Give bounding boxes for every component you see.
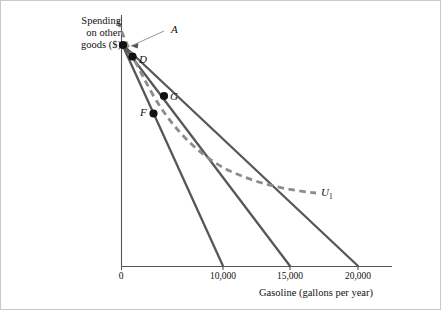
curve-label-u1-subscript: 1 — [329, 192, 333, 201]
budget-line-steep — [122, 44, 223, 266]
point-label-a: A — [171, 23, 178, 35]
leader-line-a — [131, 31, 164, 48]
budget-line-flat — [122, 44, 358, 266]
axes-group — [121, 15, 392, 267]
x-tick-label-20000: 20,000 — [345, 271, 371, 281]
x-tick-label-15000: 15,000 — [277, 271, 303, 281]
point-label-g: G — [170, 90, 178, 102]
budget-line-middle — [122, 44, 290, 266]
point-marker-g — [160, 92, 168, 100]
indifference-curve-u1 — [118, 21, 316, 193]
point-label-d: D — [139, 53, 147, 65]
figure-container: Spending on other goods ($) Gasoline (ga… — [0, 0, 441, 310]
y-axis-title-line-2: on other — [59, 27, 121, 39]
curve-label-u1: U1 — [321, 186, 333, 201]
y-axis-title-line-1: Spending — [59, 15, 121, 27]
point-marker-d — [128, 52, 136, 60]
x-axis-title: Gasoline (gallons per year) — [259, 287, 373, 299]
x-tick-label-10000: 10,000 — [210, 271, 236, 281]
point-marker-f — [149, 109, 157, 117]
point-label-f: F — [140, 106, 147, 118]
y-axis-title-line-3: goods ($) — [59, 39, 121, 51]
budget-lines-group — [122, 44, 358, 266]
curve-label-u1-base: U — [321, 186, 329, 198]
y-axis-title: Spending on other goods ($) — [59, 15, 121, 51]
x-tick-label-0: 0 — [119, 271, 124, 281]
